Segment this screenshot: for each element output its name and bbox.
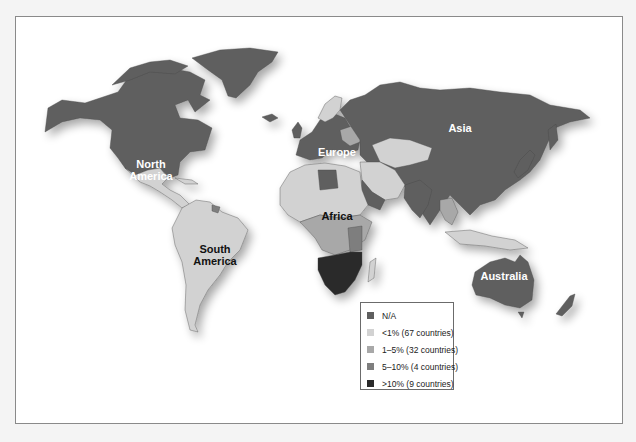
legend-label: <1% (67 countries) <box>382 328 454 338</box>
legend-item-5to10: 5–10% (4 countries) <box>367 358 453 375</box>
map-legend: N/A <1% (67 countries) 1–5% (32 countrie… <box>360 302 454 390</box>
legend-label: N/A <box>382 311 396 321</box>
legend-label: 5–10% (4 countries) <box>382 362 458 372</box>
label-africa: Africa <box>316 210 358 222</box>
region-iceland <box>262 114 278 122</box>
legend-item-gt10: >10% (9 countries) <box>367 375 453 392</box>
legend-label: >10% (9 countries) <box>382 379 454 389</box>
region-madagascar <box>368 258 376 282</box>
label-europe: Europe <box>312 146 362 158</box>
region-southern-africa <box>318 252 362 295</box>
swatch-na <box>367 312 374 319</box>
region-southeast-asia <box>440 198 458 225</box>
legend-label: 1–5% (32 countries) <box>382 345 458 355</box>
label-south-america: South America <box>188 243 242 267</box>
region-caribbean <box>175 178 198 184</box>
swatch-1to5 <box>367 346 374 353</box>
legend-item-lt1: <1% (67 countries) <box>367 324 453 341</box>
region-greenland <box>192 48 278 98</box>
region-east-africa <box>348 226 362 252</box>
region-new-zealand <box>556 294 575 316</box>
label-asia: Asia <box>440 122 480 134</box>
region-indonesia <box>445 230 528 250</box>
legend-item-na: N/A <box>367 307 453 324</box>
region-tasmania <box>518 312 524 318</box>
swatch-gt10 <box>367 380 374 387</box>
swatch-lt1 <box>367 329 374 336</box>
label-australia: Australia <box>476 270 532 282</box>
swatch-5to10 <box>367 363 374 370</box>
region-libya <box>318 170 338 190</box>
label-north-america: North America <box>124 158 178 182</box>
legend-item-1to5: 1–5% (32 countries) <box>367 341 453 358</box>
region-uk <box>292 122 302 138</box>
